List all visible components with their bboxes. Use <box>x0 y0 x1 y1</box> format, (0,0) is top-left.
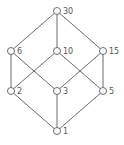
node-circle <box>54 128 61 135</box>
edge-30-6 <box>11 11 57 51</box>
edge-2-1 <box>11 91 57 131</box>
diagram-edges <box>11 11 103 131</box>
node-label: 5 <box>109 87 114 96</box>
node-circle <box>54 48 61 55</box>
node-label: 2 <box>17 87 22 96</box>
node-30: 30 <box>54 7 74 16</box>
node-label: 30 <box>63 7 73 16</box>
hasse-diagram: 30610152351 <box>0 0 124 145</box>
node-circle <box>8 48 15 55</box>
node-label: 1 <box>63 127 68 136</box>
node-5: 5 <box>100 87 115 96</box>
node-circle <box>8 88 15 95</box>
node-circle <box>54 8 61 15</box>
node-15: 15 <box>100 47 120 56</box>
node-label: 6 <box>17 47 22 56</box>
node-label: 3 <box>63 87 68 96</box>
node-label: 15 <box>109 47 119 56</box>
edge-5-1 <box>57 91 103 131</box>
node-circle <box>54 88 61 95</box>
edge-30-15 <box>57 11 103 51</box>
diagram-nodes: 30610152351 <box>8 7 120 136</box>
node-label: 10 <box>63 47 73 56</box>
node-10: 10 <box>54 47 74 56</box>
node-circle <box>100 88 107 95</box>
node-circle <box>100 48 107 55</box>
